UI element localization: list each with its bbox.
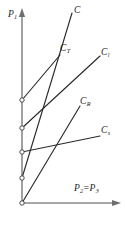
x-axis-label: P2=P3 xyxy=(74,184,99,194)
y-axis-arrowhead xyxy=(19,8,25,17)
intercept-marker-origin xyxy=(20,201,24,205)
curve-label-CT: CT xyxy=(60,44,70,54)
curve-line-Cl xyxy=(22,56,100,128)
curve-label-Cs: Cs xyxy=(101,126,110,136)
curve-label-Cl: Cl xyxy=(101,48,109,58)
cost-curves-figure: C CT Cl CR Cs P1 P2=P3 xyxy=(0,0,125,226)
x-axis-label-sub-b: 3 xyxy=(95,187,98,194)
curve-line-C xyxy=(22,13,72,178)
curve-line-CT xyxy=(22,55,60,100)
y-axis-label-sub: 1 xyxy=(14,13,17,20)
x-axis-label-sub-a: 2 xyxy=(80,187,83,194)
curve-label-CR: CR xyxy=(80,97,90,107)
curve-label-Cs-sub: s xyxy=(107,129,110,136)
curve-label-CT-sub: T xyxy=(66,47,70,54)
curve-label-Cl-sub: l xyxy=(107,51,109,58)
y-axis-label-base: P xyxy=(8,9,14,19)
plot-canvas xyxy=(0,0,125,226)
x-axis-arrowhead xyxy=(112,200,121,206)
intercept-marker-Cl xyxy=(20,126,24,130)
y-axis-label: P1 xyxy=(8,10,17,20)
intercept-marker-C xyxy=(20,176,24,180)
intercept-marker-CT xyxy=(20,98,24,102)
curve-label-C: C xyxy=(74,6,81,16)
curve-label-CR-sub: R xyxy=(86,100,90,107)
x-axis-label-base-a: P xyxy=(74,183,80,193)
intercept-marker-Cs xyxy=(20,150,24,154)
